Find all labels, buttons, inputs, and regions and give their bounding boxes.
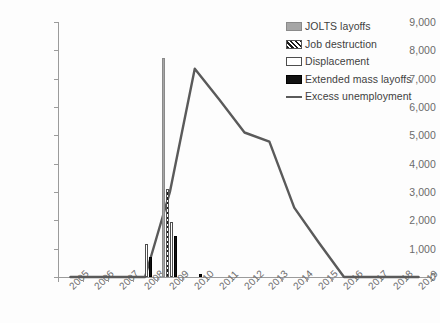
x-tick-mark	[307, 278, 308, 282]
legend-item-job-destruction[interactable]: Job destruction	[286, 36, 432, 54]
legend-item-label: Extended mass layoffs	[305, 74, 412, 85]
chart-legend: JOLTS layoffsJob destructionDisplacement…	[286, 18, 432, 106]
x-tick-mark	[381, 278, 382, 282]
legend-item-label: Job destruction	[305, 39, 377, 50]
legend-item-excess-unemployment[interactable]: Excess unemployment	[286, 88, 432, 106]
x-tick-mark	[157, 278, 158, 282]
bar-extended-mass-layoffs-2009	[174, 236, 177, 277]
bar-job-destruction-2009	[166, 189, 169, 277]
white-outline-icon	[286, 57, 302, 66]
hatch-icon	[286, 40, 302, 49]
legend-item-label: JOLTS layoffs	[305, 21, 371, 32]
x-tick-mark	[83, 278, 84, 282]
legend-item-label: Displacement	[305, 56, 369, 67]
line-icon	[286, 92, 302, 101]
legend-item-extended-mass-layoffs[interactable]: Extended mass layoffs	[286, 71, 432, 89]
legend-item-jolts-layoffs[interactable]: JOLTS layoffs	[286, 18, 432, 36]
bar-displacement-2008	[145, 244, 148, 277]
x-tick-mark	[182, 278, 183, 282]
x-tick-mark	[431, 278, 432, 282]
x-tick-mark	[232, 278, 233, 282]
bar-jolts-layoffs-2009	[162, 58, 165, 277]
x-tick-mark	[282, 278, 283, 282]
x-tick-mark	[58, 278, 59, 282]
x-tick-mark	[133, 278, 134, 282]
x-tick-mark	[406, 278, 407, 282]
x-tick-mark	[108, 278, 109, 282]
gray-fill-icon	[286, 22, 302, 31]
black-fill-icon	[286, 75, 302, 84]
bar-extended-mass-layoffs-2010	[199, 274, 202, 277]
legend-item-displacement[interactable]: Displacement	[286, 53, 432, 71]
x-tick-mark	[257, 278, 258, 282]
legend-item-label: Excess unemployment	[305, 91, 412, 102]
bar-extended-mass-layoffs-2008	[149, 257, 152, 277]
x-tick-mark	[332, 278, 333, 282]
x-tick-mark	[207, 278, 208, 282]
x-tick-mark	[356, 278, 357, 282]
bar-displacement-2009	[170, 222, 173, 277]
